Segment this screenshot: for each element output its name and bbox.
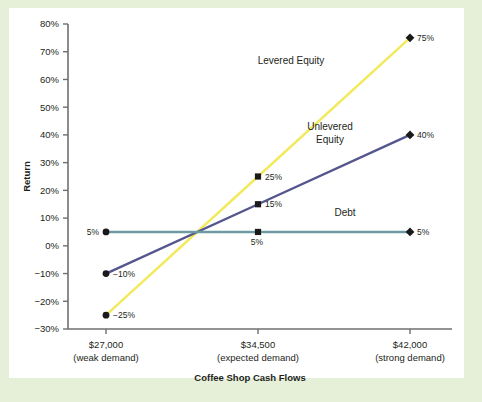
y-tick-label: 50% <box>40 102 60 113</box>
y-tick-label: −30% <box>34 323 59 334</box>
data-point-label: 15% <box>265 199 282 209</box>
points-levered-equity: −25%25%75% <box>103 33 435 320</box>
data-point-marker <box>255 229 261 235</box>
data-point-marker <box>255 173 261 179</box>
x-tick-sublabel: (strong demand) <box>375 352 445 363</box>
series-annotation-line: Debt <box>334 207 355 218</box>
x-tick-sublabel: (expected demand) <box>217 352 299 363</box>
series-annotation-debt: Debt <box>334 207 355 218</box>
series-annotation-line: Unlevered <box>307 121 353 132</box>
data-point-marker <box>406 131 415 140</box>
y-tick-label: 70% <box>40 46 60 57</box>
y-tick-label: 80% <box>40 18 60 29</box>
y-tick-label: −20% <box>34 296 59 307</box>
figure-container: 80%70%60%50%40%30%20%10%0%−10%−20%−30%$2… <box>0 0 482 402</box>
data-point-marker <box>406 228 415 237</box>
data-point-label: 75% <box>417 33 434 43</box>
x-tick-label: $27,000 <box>89 339 123 350</box>
y-tick-label: −10% <box>34 268 59 279</box>
x-axis-title: Coffee Shop Cash Flows <box>194 372 305 383</box>
y-tick-label: 10% <box>40 212 60 223</box>
data-point-label: −10% <box>113 269 135 279</box>
points-unlevered-equity: −10%15%40% <box>103 130 435 279</box>
x-tick-label: $34,500 <box>241 339 275 350</box>
y-tick-label: 60% <box>40 74 60 85</box>
data-point-label: 5% <box>87 227 100 237</box>
data-point-label: 40% <box>417 130 434 140</box>
x-tick-label: $42,000 <box>393 339 427 350</box>
points-debt: 5%5%5% <box>87 227 430 247</box>
data-point-label: 25% <box>265 172 282 182</box>
return-vs-cashflow-chart: 80%70%60%50%40%30%20%10%0%−10%−20%−30%$2… <box>0 0 482 402</box>
series-annotation-line: Levered Equity <box>258 55 325 66</box>
data-point-marker <box>103 270 110 277</box>
y-tick-label: 30% <box>40 157 60 168</box>
x-axis-ticks: $27,000(weak demand)$34,500(expected dem… <box>73 329 445 363</box>
data-point-label: 5% <box>417 227 430 237</box>
y-tick-label: 20% <box>40 185 60 196</box>
data-point-marker <box>103 229 110 236</box>
data-point-label: −25% <box>113 310 135 320</box>
series-annotation-line: Equity <box>316 134 344 145</box>
y-axis-ticks: 80%70%60%50%40%30%20%10%0%−10%−20%−30% <box>34 18 68 334</box>
data-point-marker <box>255 201 261 207</box>
x-tick-sublabel: (weak demand) <box>73 352 138 363</box>
series-annotation-unlevered-equity: UnleveredEquity <box>307 121 353 145</box>
y-tick-label: 0% <box>45 240 59 251</box>
y-axis-title: Return <box>21 161 32 192</box>
data-point-label: 5% <box>251 237 264 247</box>
data-point-marker <box>103 312 110 319</box>
y-tick-label: 40% <box>40 129 60 140</box>
series-annotation-levered-equity: Levered Equity <box>258 55 325 66</box>
